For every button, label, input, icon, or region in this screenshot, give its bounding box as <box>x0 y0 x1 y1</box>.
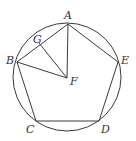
label-g: G <box>33 33 42 46</box>
segment-af <box>67 24 68 78</box>
label-c: C <box>26 123 35 136</box>
segment-bf <box>17 62 67 78</box>
geometry-diagram: A B C D E F G <box>0 0 136 141</box>
label-e: E <box>120 54 129 67</box>
segment-gf <box>39 43 67 78</box>
label-d: D <box>100 123 110 136</box>
label-f: F <box>69 75 78 88</box>
label-b: B <box>5 54 14 67</box>
label-a: A <box>63 9 72 22</box>
